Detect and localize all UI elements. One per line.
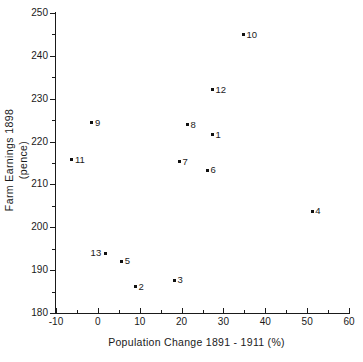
data-point-label: 13 — [91, 248, 102, 258]
data-point-label: 6 — [211, 165, 216, 175]
data-point-marker — [206, 169, 209, 172]
y-tick-major — [50, 56, 56, 57]
x-tick-major — [223, 308, 224, 314]
x-tick-label: -10 — [36, 317, 76, 327]
data-point-marker — [104, 252, 107, 255]
y-axis-title: Farm Earnings 1898 (pence) — [2, 40, 30, 280]
y-axis-title-line1-text: Farm Earnings 1898 — [3, 109, 15, 211]
y-tick-minor — [52, 77, 56, 78]
x-tick-minor — [203, 310, 204, 314]
x-tick-label: 20 — [162, 317, 202, 327]
data-point-label: 5 — [125, 256, 130, 266]
y-tick-major — [50, 270, 56, 271]
data-point-label: 2 — [139, 282, 144, 292]
x-tick-major — [98, 308, 99, 314]
x-tick-label: 50 — [287, 317, 327, 327]
y-tick-minor — [52, 34, 56, 35]
y-tick-minor — [52, 120, 56, 121]
data-point-marker — [211, 133, 214, 136]
y-tick-major — [50, 227, 56, 228]
y-tick-major — [50, 184, 56, 185]
y-tick-minor — [52, 206, 56, 207]
data-point-label: 4 — [315, 206, 320, 216]
y-tick-major — [50, 142, 56, 143]
x-tick-major — [56, 308, 57, 314]
x-tick-label: 30 — [203, 317, 243, 327]
x-axis-title: Population Change 1891 - 1911 (%) — [0, 336, 363, 348]
x-tick-label: 60 — [329, 317, 363, 327]
x-tick-minor — [244, 310, 245, 314]
data-point-marker — [120, 260, 123, 263]
data-point-label: 9 — [95, 118, 100, 128]
y-tick-minor — [52, 163, 56, 164]
data-point-marker — [134, 285, 137, 288]
y-tick-minor — [52, 249, 56, 250]
data-point-label: 12 — [216, 85, 227, 95]
data-point-label: 11 — [75, 155, 85, 165]
scatter-plot-figure: 180190200210220230240250 -10010203040506… — [0, 0, 363, 362]
x-tick-minor — [328, 310, 329, 314]
data-point-label: 7 — [182, 157, 187, 167]
y-tick-major — [50, 13, 56, 14]
y-tick-label: 250 — [0, 8, 48, 18]
y-axis-title-line2: (pence) — [16, 40, 30, 280]
x-tick-minor — [286, 310, 287, 314]
x-tick-major — [349, 308, 350, 314]
y-axis-title-line1: Farm Earnings 1898 — [2, 40, 16, 280]
y-tick-minor — [52, 292, 56, 293]
data-point-marker — [173, 279, 176, 282]
data-point-marker — [242, 33, 245, 36]
x-tick-major — [182, 308, 183, 314]
x-tick-minor — [119, 310, 120, 314]
x-tick-label: 0 — [78, 317, 118, 327]
data-point-label: 1 — [216, 130, 221, 140]
data-point-label: 8 — [190, 120, 195, 130]
data-point-marker — [178, 160, 181, 163]
y-axis-title-line2-text: (pence) — [17, 141, 29, 179]
x-tick-label: 10 — [120, 317, 160, 327]
data-point-marker — [211, 88, 214, 91]
x-tick-major — [265, 308, 266, 314]
data-point-label: 10 — [247, 30, 258, 40]
data-point-label: 3 — [177, 275, 182, 285]
x-tick-minor — [161, 310, 162, 314]
x-tick-minor — [77, 310, 78, 314]
x-tick-label: 40 — [245, 317, 285, 327]
data-point-marker — [70, 158, 73, 161]
y-tick-major — [50, 99, 56, 100]
data-point-marker — [186, 123, 189, 126]
data-point-marker — [90, 121, 93, 124]
x-tick-major — [307, 308, 308, 314]
data-point-marker — [311, 210, 314, 213]
x-tick-major — [140, 308, 141, 314]
